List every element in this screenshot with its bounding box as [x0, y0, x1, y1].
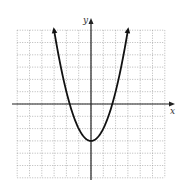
y-axis-label: y — [82, 15, 89, 25]
parabola-graph: x y — [0, 0, 183, 180]
x-axis-label: x — [170, 106, 175, 116]
y-axis-arrow-icon — [89, 18, 94, 24]
axes: x y — [12, 15, 175, 180]
